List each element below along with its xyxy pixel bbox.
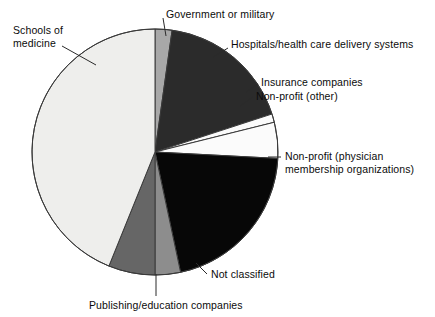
slice-label-not-classified: Not classified [211, 268, 275, 281]
slice-label-schools-of-medicine: Schools of medicine [13, 24, 63, 49]
slice-label-schools-of-medicine-line2: medicine [13, 37, 63, 50]
slice-label-non-profit-physician-line1: Non-profit (physician [285, 150, 414, 163]
slice-label-hospitals: Hospitals/health care delivery systems [231, 38, 413, 51]
pie-slices-group [32, 29, 278, 275]
slice-label-government-or-military: Government or military [166, 8, 274, 21]
slice-label-non-profit-physician-line2: membership organizations) [285, 163, 414, 176]
slice-label-publishing-education: Publishing/education companies [89, 299, 243, 312]
slice-label-insurance-companies: Insurance companies [261, 76, 363, 89]
slice-label-non-profit-physician: Non-profit (physician membership organiz… [285, 150, 414, 175]
slice-label-non-profit-other: Non-profit (other) [256, 90, 338, 103]
pie-chart-figure: Schools of medicine Government or milita… [0, 0, 435, 317]
slice-label-schools-of-medicine-line1: Schools of [13, 24, 63, 37]
